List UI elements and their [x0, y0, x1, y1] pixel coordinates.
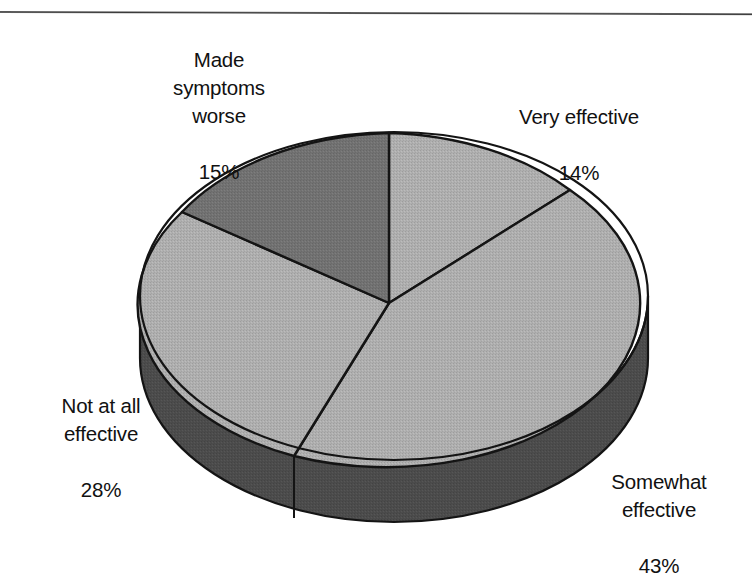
pie-label-somewhat-effective-percent: 43%: [566, 552, 752, 577]
pie-label-somewhat-effective: Somewhat effective 43%: [566, 440, 752, 577]
pie-label-very-effective: Very effective 14%: [455, 75, 703, 215]
pie-label-made-symptoms-worse-text: Made symptoms worse: [109, 46, 329, 130]
pie-label-not-at-all-effective-text: Not at all effective: [6, 392, 196, 448]
pie-label-very-effective-percent: 14%: [455, 159, 703, 187]
pie-label-made-symptoms-worse-percent: 15%: [109, 158, 329, 186]
pie-label-very-effective-text: Very effective: [455, 103, 703, 131]
pie-label-made-symptoms-worse: Made symptoms worse 15%: [109, 18, 329, 214]
pie-label-not-at-all-effective-percent: 28%: [6, 476, 196, 504]
pie-label-not-at-all-effective: Not at all effective 28%: [6, 364, 196, 532]
pie-label-somewhat-effective-text: Somewhat effective: [566, 468, 752, 524]
